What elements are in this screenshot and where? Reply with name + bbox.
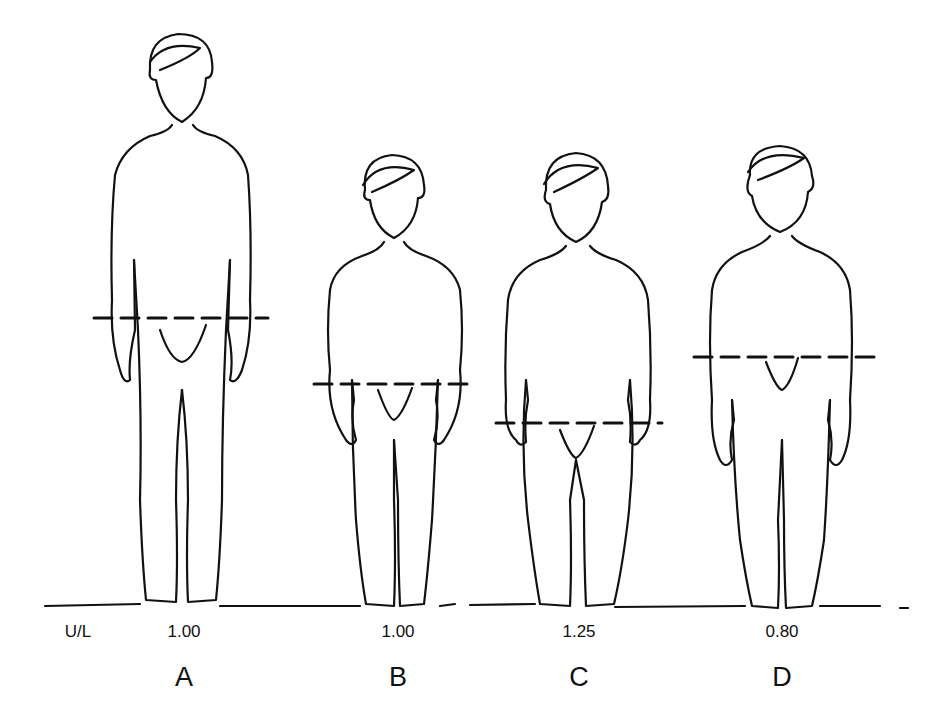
- body-proportion-illustration: [0, 0, 947, 706]
- ratio-axis-label: U/L: [65, 622, 91, 642]
- ratio-value-a: 1.00: [167, 622, 200, 642]
- ratio-value-d: 0.80: [765, 622, 798, 642]
- figure-label-d: D: [772, 662, 792, 693]
- ratio-value-b: 1.00: [381, 622, 414, 642]
- figure-c: [496, 153, 662, 606]
- figure-label-c: C: [569, 662, 589, 693]
- figure-d: [694, 146, 876, 608]
- figure-b: [314, 155, 474, 606]
- figure-label-a: A: [175, 662, 193, 693]
- figure-label-b: B: [389, 662, 407, 693]
- ratio-value-c: 1.25: [562, 622, 595, 642]
- figure-a: [94, 34, 268, 602]
